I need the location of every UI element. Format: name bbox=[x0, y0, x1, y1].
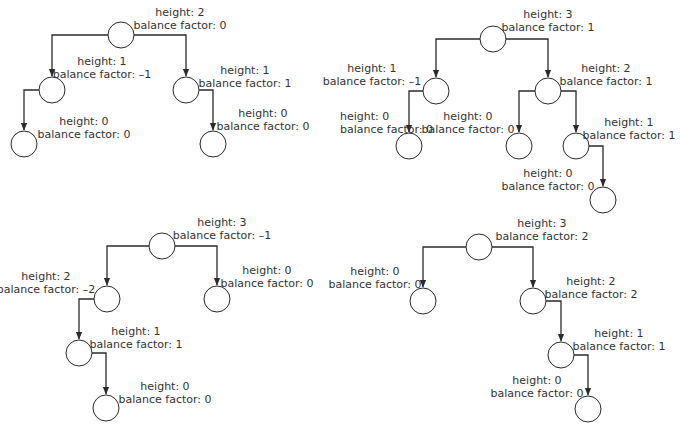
edge-arrow bbox=[107, 246, 149, 285]
tree-node bbox=[11, 131, 37, 157]
node-balance-factor-label: balance factor: 0 bbox=[133, 19, 226, 32]
tree-node bbox=[520, 288, 546, 314]
node-height-label: height: 2 bbox=[155, 6, 204, 19]
node-height-label: height: 3 bbox=[197, 216, 246, 229]
node-balance-factor-label: balance factor: –1 bbox=[173, 229, 272, 242]
trees-layer: height: 2balance factor: 0height: 1balan… bbox=[0, 6, 676, 422]
tree-node bbox=[548, 342, 574, 368]
edge-arrow bbox=[519, 91, 535, 132]
tree-node bbox=[94, 286, 120, 312]
node-height-label: height: 0 bbox=[350, 265, 399, 278]
edge-arrow bbox=[199, 90, 213, 130]
tree-node bbox=[506, 133, 532, 159]
tree-2: height: 3balance factor: 1height: 1balan… bbox=[323, 8, 676, 213]
node-height-label: height: 0 bbox=[523, 167, 572, 180]
tree-node bbox=[535, 78, 561, 104]
node-height-label: height: 0 bbox=[512, 374, 561, 387]
tree-node bbox=[200, 131, 226, 157]
node-balance-factor-label: balance factor: 1 bbox=[572, 340, 665, 353]
node-height-label: height: 0 bbox=[242, 264, 291, 277]
edge-arrow bbox=[546, 301, 561, 341]
edge-arrow bbox=[423, 247, 466, 287]
edge-arrow bbox=[561, 91, 576, 132]
node-height-label: height: 1 bbox=[347, 62, 396, 75]
tree-3: height: 3balance factor: –1height: 2bala… bbox=[0, 216, 314, 421]
node-balance-factor-label: balance factor: 1 bbox=[559, 75, 652, 88]
node-balance-factor-label: balance factor: 2 bbox=[544, 288, 637, 301]
avl-trees-diagram: height: 2balance factor: 0height: 1balan… bbox=[0, 0, 681, 438]
node-balance-factor-label: balance factor: 0 bbox=[328, 278, 421, 291]
tree-node bbox=[423, 78, 449, 104]
edge-arrow bbox=[175, 246, 217, 285]
node-height-label: height: 1 bbox=[594, 327, 643, 340]
node-balance-factor-label: balance factor: 0 bbox=[490, 387, 583, 400]
node-balance-factor-label: balance factor: 2 bbox=[495, 230, 588, 243]
edge-arrow bbox=[436, 39, 480, 77]
tree-4: height: 3balance factor: 2height: 0balan… bbox=[328, 217, 665, 422]
node-balance-factor-label: balance factor: 0 bbox=[421, 123, 514, 136]
node-height-label: height: 0 bbox=[140, 380, 189, 393]
tree-node bbox=[173, 77, 199, 103]
node-balance-factor-label: balance factor: 0 bbox=[340, 123, 433, 136]
node-height-label: height: 1 bbox=[77, 55, 126, 68]
tree-node bbox=[93, 395, 119, 421]
tree-node bbox=[149, 233, 175, 259]
node-height-label: height: 1 bbox=[111, 325, 160, 338]
node-balance-factor-label: balance factor: –2 bbox=[0, 283, 95, 296]
node-balance-factor-label: balance factor: 0 bbox=[216, 120, 309, 133]
diagram-svg: height: 2balance factor: 0height: 1balan… bbox=[0, 0, 681, 438]
tree-node bbox=[396, 133, 422, 159]
node-balance-factor-label: balance factor: 1 bbox=[89, 338, 182, 351]
node-balance-factor-label: balance factor: 1 bbox=[501, 21, 594, 34]
node-height-label: height: 2 bbox=[581, 62, 630, 75]
node-height-label: height: 1 bbox=[220, 64, 269, 77]
node-height-label: height: 2 bbox=[566, 275, 615, 288]
node-balance-factor-label: balance factor: 0 bbox=[501, 180, 594, 193]
edge-arrow bbox=[492, 247, 533, 287]
node-height-label: height: 0 bbox=[340, 110, 389, 123]
tree-node bbox=[410, 288, 436, 314]
node-balance-factor-label: balance factor: 1 bbox=[582, 129, 675, 142]
node-balance-factor-label: balance factor: 0 bbox=[220, 277, 313, 290]
edge-arrow bbox=[79, 299, 94, 339]
tree-node bbox=[466, 234, 492, 260]
node-height-label: height: 0 bbox=[238, 107, 287, 120]
node-balance-factor-label: balance factor: –1 bbox=[323, 75, 422, 88]
node-height-label: height: 0 bbox=[59, 115, 108, 128]
node-balance-factor-label: balance factor: 1 bbox=[198, 77, 291, 90]
node-balance-factor-label: balance factor: –1 bbox=[53, 68, 152, 81]
edge-arrow bbox=[92, 353, 106, 394]
node-height-label: height: 3 bbox=[523, 8, 572, 21]
node-balance-factor-label: balance factor: 0 bbox=[37, 128, 130, 141]
tree-node bbox=[66, 340, 92, 366]
node-height-label: height: 2 bbox=[21, 270, 70, 283]
tree-1: height: 2balance factor: 0height: 1balan… bbox=[11, 6, 310, 157]
node-height-label: height: 1 bbox=[604, 116, 653, 129]
edge-arrow bbox=[506, 39, 548, 77]
node-balance-factor-label: balance factor: 0 bbox=[118, 393, 211, 406]
edge-arrow bbox=[24, 90, 39, 130]
node-height-label: height: 0 bbox=[443, 110, 492, 123]
tree-node bbox=[108, 22, 134, 48]
node-height-label: height: 3 bbox=[517, 217, 566, 230]
